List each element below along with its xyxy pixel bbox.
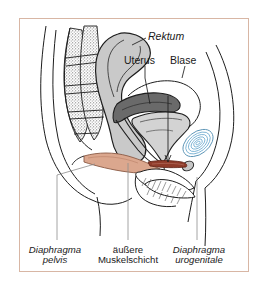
- caption-line-1: äußere: [113, 244, 143, 255]
- caption-label-diaphragma-pelvis: Diaphragma pelvis: [14, 245, 96, 266]
- callout-label-blase: Blase: [170, 55, 196, 66]
- caption-line-2: pelvis: [14, 255, 96, 265]
- caption-line-2: urogenitale: [158, 255, 240, 265]
- callout-label-uterus: Uterus: [124, 55, 155, 66]
- caption-line-1: Diaphragma: [29, 244, 81, 255]
- caption-label-diaphragma-urogenitale: Diaphragma urogenitale: [158, 245, 240, 266]
- caption-line-1: Diaphragma: [173, 244, 225, 255]
- figure-root: Rektum Uterus Blase Diaphragma pelvis äu…: [0, 0, 268, 286]
- aeussere-muskelschicht: [135, 169, 195, 207]
- callout-label-rektum: Rektum: [148, 31, 184, 42]
